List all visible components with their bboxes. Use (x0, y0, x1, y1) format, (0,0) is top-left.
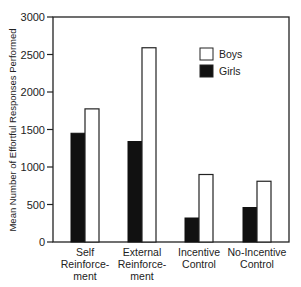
bar-girls (128, 142, 142, 243)
y-axis: 050010001500200025003000 (21, 11, 53, 248)
legend: BoysGirls (200, 48, 242, 77)
x-category-label: ment (130, 270, 153, 282)
x-category-label: External (123, 246, 162, 258)
x-category-label: Control (240, 258, 274, 270)
bar-boys (142, 48, 156, 242)
y-tick-label: 1500 (21, 124, 45, 136)
y-tick-label: 3000 (21, 11, 45, 23)
bar-chart: 050010001500200025003000 SelfReinforce-m… (0, 0, 301, 287)
x-category-label: No-Incentive (228, 246, 287, 258)
x-category-label: Reinforce- (118, 258, 167, 270)
y-tick-label: 0 (39, 236, 45, 248)
x-axis-labels: SelfReinforce-mentExternalReinforce-ment… (61, 246, 287, 282)
legend-label: Boys (219, 48, 242, 60)
bar-boys (85, 109, 99, 242)
legend-swatch (200, 48, 213, 60)
x-category-label: Self (76, 246, 94, 258)
y-axis-label: Mean Number of Effortful Responses Perfo… (7, 28, 18, 231)
bar-girls (185, 218, 199, 242)
bars (71, 48, 271, 242)
legend-label: Girls (219, 65, 241, 77)
x-category-label: ment (73, 270, 96, 282)
legend-swatch (200, 65, 213, 77)
bar-girls (243, 208, 257, 243)
x-category-label: Reinforce- (61, 258, 110, 270)
y-tick-label: 2500 (21, 49, 45, 61)
y-tick-label: 1000 (21, 161, 45, 173)
y-tick-label: 2000 (21, 86, 45, 98)
bar-girls (71, 133, 85, 242)
y-tick-label: 500 (27, 199, 45, 211)
bar-boys (199, 175, 213, 243)
x-category-label: Control (182, 258, 216, 270)
bar-boys (257, 181, 271, 242)
x-category-label: Incentive (178, 246, 220, 258)
